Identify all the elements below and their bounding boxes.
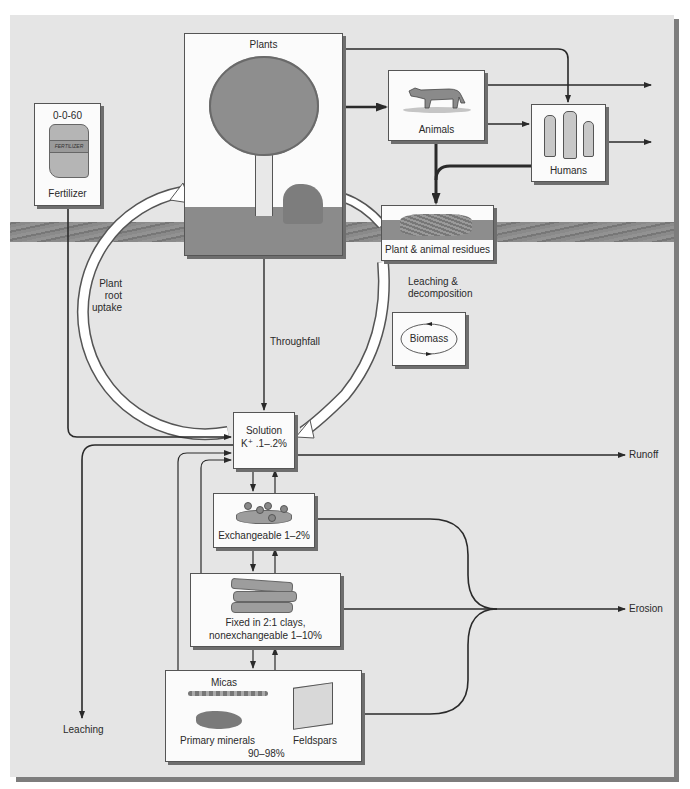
- person-icon: [563, 111, 577, 159]
- animals-label: Animals: [389, 124, 484, 135]
- leaching-decomposition-line1: Leaching &: [408, 276, 472, 288]
- potassium-ion-icon: [268, 514, 276, 522]
- solution-box: Solution K⁺ .1–.2%: [233, 412, 295, 469]
- erosion-label: Erosion: [629, 603, 663, 614]
- runoff-label: Runoff: [629, 449, 658, 460]
- micas-label: Micas: [211, 677, 237, 688]
- primary-minerals-label: Primary minerals: [180, 735, 255, 746]
- tree-icon: [209, 56, 319, 156]
- person-icon: [544, 115, 556, 157]
- plant-root-uptake-line3: uptake: [88, 302, 122, 314]
- plants-label: Plants: [185, 39, 342, 50]
- fertilizer-grade: 0-0-60: [35, 110, 100, 121]
- clay-layer-icon: [233, 591, 297, 602]
- primary-percent-label: 90–98%: [248, 748, 285, 759]
- residues-label: Plant & animal residues: [382, 244, 493, 255]
- potassium-ion-icon: [244, 502, 252, 510]
- exchangeable-box: Exchangeable 1–2%: [213, 493, 315, 548]
- cow-icon: [401, 81, 471, 113]
- plants-box: Plants: [184, 33, 343, 256]
- plant-root-uptake-line2: root: [88, 290, 122, 302]
- clay-layer-icon: [231, 602, 293, 613]
- plant-root-uptake-label: Plant root uptake: [88, 278, 122, 314]
- solution-label: Solution: [234, 425, 294, 436]
- feldspars-label: Feldspars: [293, 735, 337, 746]
- fixed-clays-box: Fixed in 2:1 clays, nonexchangeable 1–10…: [190, 573, 341, 647]
- fertilizer-box: 0-0-60 FERTILIZER Fertilizer: [34, 103, 101, 206]
- potassium-ion-icon: [264, 502, 272, 510]
- humans-label: Humans: [532, 165, 605, 176]
- leaching-decomposition-line2: decomposition: [408, 288, 472, 300]
- leaching-label: Leaching: [63, 724, 104, 735]
- animals-box: Animals: [388, 70, 485, 141]
- micas-icon: [188, 691, 268, 696]
- biomass-label: Biomass: [393, 333, 465, 344]
- potassium-ion-icon: [280, 505, 288, 513]
- fixed-label-line1: Fixed in 2:1 clays,: [191, 617, 340, 628]
- fixed-label-line2: nonexchangeable 1–10%: [191, 630, 340, 641]
- plant-root-uptake-line1: Plant: [88, 278, 122, 290]
- solution-k-percent: K⁺ .1–.2%: [234, 438, 294, 449]
- primary-mineral-icon: [196, 711, 242, 729]
- potassium-ion-icon: [256, 506, 264, 514]
- leaching-decomposition-label: Leaching & decomposition: [408, 276, 472, 300]
- fertilizer-bag-text: FERTILIZER: [50, 140, 88, 153]
- exchangeable-label: Exchangeable 1–2%: [214, 530, 314, 541]
- humans-box: Humans: [531, 104, 606, 182]
- person-icon: [583, 121, 594, 157]
- throughfall-label: Throughfall: [270, 336, 320, 347]
- fertilizer-label: Fertilizer: [35, 188, 100, 199]
- fertilizer-bag-icon: FERTILIZER: [49, 124, 89, 178]
- biomass-box: Biomass: [392, 312, 466, 366]
- plant-animal-residues-box: Plant & animal residues: [381, 205, 494, 261]
- shrub-icon: [283, 184, 323, 224]
- primary-minerals-box: Micas Primary minerals Feldspars 90–98%: [165, 670, 362, 762]
- feldspar-icon: [293, 682, 333, 730]
- tree-trunk-icon: [255, 146, 273, 216]
- residue-pile-icon: [400, 214, 472, 236]
